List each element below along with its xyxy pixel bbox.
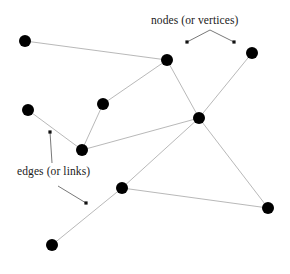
graph-node <box>193 112 205 124</box>
graph-edge <box>199 53 252 118</box>
graph-edge <box>103 60 167 104</box>
annotation-leader-line <box>50 132 52 163</box>
annotation-leader-line <box>210 30 234 42</box>
graph-node <box>97 98 109 110</box>
edges-annotation-label: edges (or links) <box>17 165 90 177</box>
graph-node <box>161 54 173 66</box>
node-layer <box>19 35 274 251</box>
graph-node <box>246 47 258 59</box>
annotation-leader-layer <box>48 30 235 205</box>
nodes-annotation-label: nodes (or vertices) <box>151 14 238 26</box>
annotation-arrow-icon <box>84 201 87 204</box>
graph-node <box>116 182 128 194</box>
annotation-arrow-icon <box>185 40 188 43</box>
annotation-leader-line <box>58 186 86 203</box>
graph-node <box>19 35 31 47</box>
graph-edge <box>167 60 199 118</box>
graph-edge <box>52 188 122 245</box>
graph-edge <box>82 104 103 150</box>
graph-node <box>46 239 58 251</box>
graph-node <box>262 202 274 214</box>
graph-edge <box>28 110 82 150</box>
annotation-arrow-icon <box>232 40 235 43</box>
graph-diagram: nodes (or vertices) edges (or links) <box>0 0 290 274</box>
graph-canvas <box>0 0 290 274</box>
graph-node <box>76 144 88 156</box>
annotation-leader-line <box>187 30 210 42</box>
annotation-arrow-icon <box>48 130 51 133</box>
graph-node <box>22 104 34 116</box>
edge-layer <box>25 41 268 245</box>
graph-edge <box>25 41 167 60</box>
graph-edge <box>199 118 268 208</box>
graph-edge <box>122 188 268 208</box>
